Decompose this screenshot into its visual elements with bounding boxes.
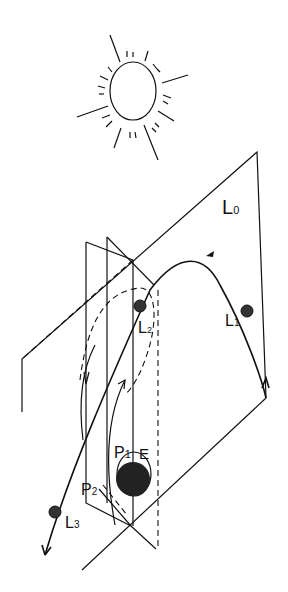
label-l2: L2	[138, 319, 152, 336]
trajectory	[42, 251, 269, 555]
arrow-icon	[206, 251, 214, 257]
lagrange-diagram: L0 L1 L2 L3 P1 P2 E	[0, 0, 288, 592]
label-l1: L1	[225, 312, 240, 329]
l2-marker	[134, 300, 146, 312]
vertical-planes	[22, 237, 158, 550]
label-l0: L0	[222, 196, 239, 218]
label-l3: L3	[65, 514, 80, 531]
labels: L0 L1 L2 L3 P1 P2 E	[65, 196, 240, 531]
l1-marker	[241, 305, 253, 317]
label-e: E	[139, 445, 149, 462]
label-p2: P2	[81, 481, 98, 498]
sun-icon	[77, 35, 188, 160]
l3-marker	[49, 506, 61, 518]
label-p1: P1	[114, 444, 131, 461]
